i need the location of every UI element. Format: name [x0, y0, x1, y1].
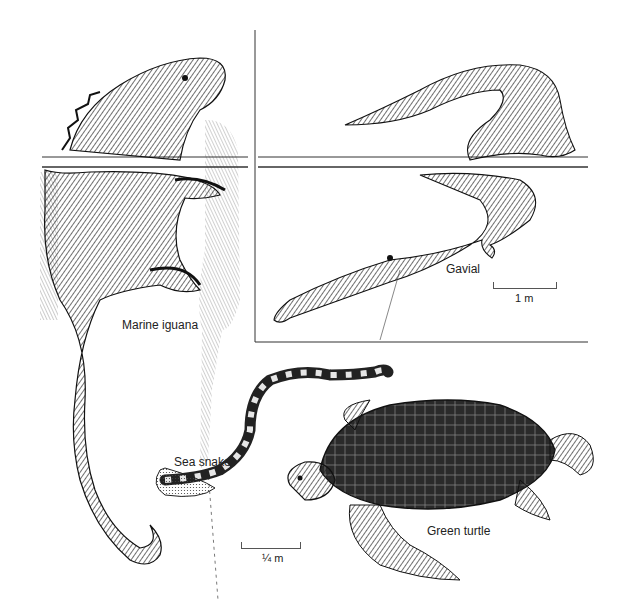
marine-iguana-label: Marine iguana [122, 318, 198, 332]
green-turtle-label: Green turtle [427, 524, 490, 538]
green-turtle-drawing [288, 400, 593, 580]
gavial-scale-label: 1 m [515, 292, 533, 304]
illustration-artwork [0, 0, 618, 612]
gavial-scale-bar [493, 282, 557, 289]
sea-snake-label: Sea snake [174, 455, 231, 469]
small-scale-label: ¼ m [262, 552, 283, 564]
gavial-label: Gavial [446, 262, 480, 276]
small-scale-bar [241, 542, 301, 549]
illustration: Gavial Marine iguana Sea snake Green tur… [0, 0, 618, 612]
